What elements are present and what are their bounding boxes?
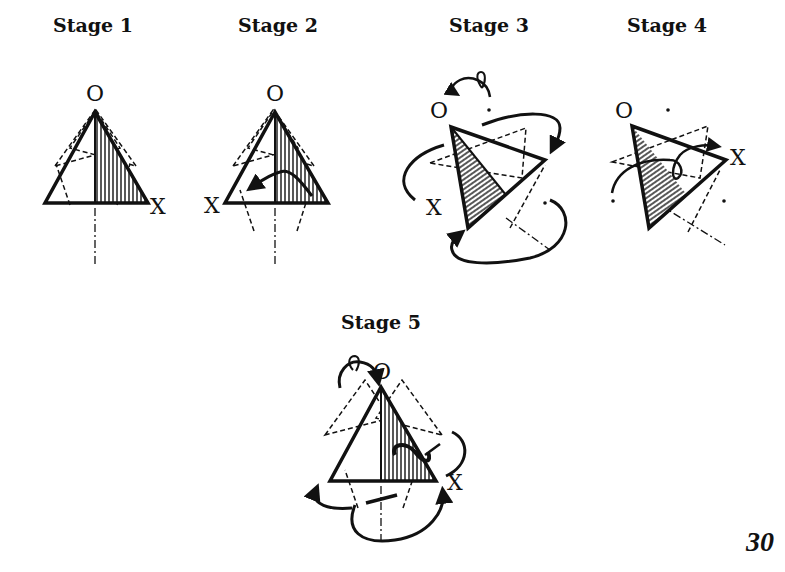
stage-3-title: Stage 3: [449, 14, 529, 36]
stage-1-vertex-label: O: [86, 83, 104, 105]
stage-1-point-label: X: [150, 196, 166, 218]
page-number: 30: [746, 526, 774, 558]
stage-2-figure: [225, 110, 328, 265]
stage-4-figure: [611, 108, 726, 245]
stage-4-title: Stage 4: [627, 14, 707, 36]
stage-3-vertex-label: O: [430, 100, 448, 122]
stage-5-point-label: X: [447, 472, 463, 494]
stage-1-figure: [45, 110, 148, 265]
stage-2-vertex-label: O: [266, 83, 284, 105]
stage-5-title: Stage 5: [341, 311, 421, 333]
stage-5-vertex-label: O: [373, 361, 391, 383]
stage-4-vertex-label: O: [615, 100, 633, 122]
stage-3-point-label: X: [426, 197, 442, 219]
stage-1-title: Stage 1: [53, 14, 133, 36]
stage-4-point-label: X: [730, 147, 746, 169]
stage-3-figure: [404, 72, 566, 263]
diagram-canvas: [0, 0, 785, 572]
stage-2-title: Stage 2: [238, 14, 318, 36]
stage-5-figure: [315, 356, 465, 545]
stage-2-point-label: X: [204, 195, 220, 217]
